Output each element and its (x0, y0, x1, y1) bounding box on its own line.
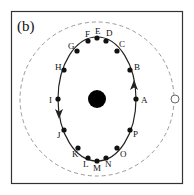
orbit-point-g (74, 48, 79, 53)
point-label-d: D (106, 28, 113, 38)
orbit-point-d (103, 38, 108, 43)
point-label-g: G (68, 41, 75, 51)
orbit-point-b (127, 67, 132, 72)
orbit-point-o (114, 145, 119, 150)
orbit-point-h (61, 67, 66, 72)
point-label-c: C (119, 39, 125, 49)
point-label-f: F (85, 29, 90, 39)
orbit-point-a (133, 96, 138, 101)
orbit-point-i (55, 96, 60, 101)
central-body (88, 90, 106, 108)
orbit-point-j (61, 127, 66, 132)
panel-label: (b) (17, 18, 35, 35)
point-label-a: A (141, 95, 148, 105)
point-label-h: H (55, 62, 62, 72)
point-label-k: K (72, 149, 79, 159)
point-label-b: B (134, 62, 140, 72)
point-label-l: L (83, 159, 89, 169)
arrow-right-up-icon (130, 80, 138, 90)
point-label-n: N (105, 159, 112, 169)
orbit-point-p (127, 127, 132, 132)
point-label-i: I (49, 95, 52, 105)
point-label-p: P (133, 129, 138, 139)
diagram-canvas: (b) ABCDEFGHIJKLMNOP (0, 0, 194, 195)
orbit-diagram: (b) ABCDEFGHIJKLMNOP (0, 0, 194, 195)
point-label-e: E (95, 26, 101, 36)
open-circle-marker (171, 95, 179, 103)
orbit-point-f (85, 38, 90, 43)
point-label-m: M (93, 163, 101, 173)
point-label-o: O (120, 149, 127, 159)
point-label-j: J (57, 130, 61, 140)
orbit-point-e (94, 35, 99, 40)
orbit-point-c (114, 48, 119, 53)
